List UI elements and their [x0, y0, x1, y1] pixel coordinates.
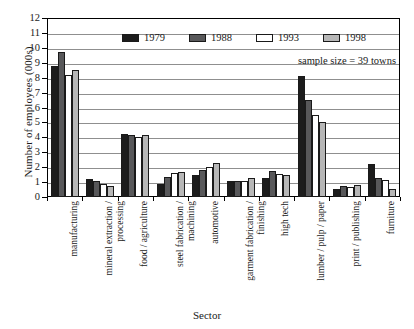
bar [319, 122, 326, 197]
x-axis-label-line: garment fabrication / [245, 201, 255, 281]
y-axis-tick-label: 12 [2, 13, 40, 24]
bar-cluster [259, 18, 294, 197]
bar [283, 175, 290, 197]
bar [312, 115, 319, 197]
x-axis-tick [82, 197, 83, 201]
bars-layer [47, 18, 400, 197]
y-axis-tick [42, 152, 47, 153]
y-axis-tick-label: 5 [2, 117, 40, 128]
y-axis-tick [42, 63, 47, 64]
y-axis-tick-label: 3 [2, 147, 40, 158]
x-axis-category-label: print / publishing [351, 201, 362, 266]
x-axis-category-label: manufacturing [69, 201, 80, 256]
bar [178, 172, 185, 197]
bar [368, 164, 375, 197]
x-axis-label-line: machining [185, 201, 196, 267]
x-axis-tick [400, 197, 401, 201]
legend-label: 1979 [144, 32, 165, 43]
legend-item: 1979 [122, 32, 189, 43]
y-axis-tick-label: 10 [2, 43, 40, 54]
bar-cluster [82, 18, 117, 197]
bar-cluster [188, 18, 223, 197]
x-axis-category-label: furniture [386, 201, 397, 234]
y-axis-tick [42, 122, 47, 123]
legend-swatch [189, 34, 206, 42]
legend-item: 1993 [256, 32, 323, 43]
bar [347, 187, 354, 197]
x-axis-tick [294, 197, 295, 201]
bar-cluster [365, 18, 400, 197]
y-axis-tick [42, 167, 47, 168]
y-axis-tick-label: 9 [2, 58, 40, 69]
x-axis-label-line: finishing [256, 201, 267, 281]
bar [213, 163, 220, 197]
bar-cluster [224, 18, 259, 197]
bar [241, 181, 248, 197]
x-axis-label-line: processing [114, 201, 125, 275]
y-axis-tick [42, 78, 47, 79]
bar [171, 173, 178, 197]
legend-label: 1993 [278, 32, 299, 43]
bar [199, 170, 206, 197]
y-axis-tick [42, 137, 47, 138]
bar [206, 167, 213, 197]
bar [382, 180, 389, 197]
x-axis-category-label: food / agriculture [139, 201, 150, 267]
y-axis-tick [42, 18, 47, 19]
x-axis-category-label: steel fabrication /machining [175, 201, 196, 267]
bar [135, 137, 142, 197]
bar [234, 181, 241, 197]
y-axis-tick [42, 93, 47, 94]
bar-cluster [294, 18, 329, 197]
bar [86, 179, 93, 197]
bar [164, 177, 171, 197]
bar [58, 52, 65, 197]
y-axis-tick-label: 6 [2, 102, 40, 113]
bar [65, 75, 72, 197]
y-axis-tick-label: 7 [2, 87, 40, 98]
x-axis-tick [153, 197, 154, 201]
y-axis-tick [42, 48, 47, 49]
bar [305, 100, 312, 197]
legend-swatch [323, 34, 340, 42]
y-axis-tick-label: 2 [2, 162, 40, 173]
bar [340, 186, 347, 197]
x-axis-label-line: lumber / pulp / paper [316, 201, 326, 281]
bar [192, 175, 199, 197]
legend-label: 1988 [211, 32, 232, 43]
bar [128, 135, 135, 197]
legend-item: 1988 [189, 32, 256, 43]
bar [72, 70, 79, 197]
x-axis-tick [224, 197, 225, 201]
x-axis-label-line: furniture [386, 201, 396, 234]
bar [298, 76, 305, 197]
x-axis-label-line: print / publishing [351, 201, 361, 266]
x-axis-label-line: steel fabrication / [175, 201, 185, 267]
y-axis-tick-label: 8 [2, 72, 40, 83]
bar [248, 178, 255, 197]
x-axis-tick [118, 197, 119, 201]
bar [389, 189, 396, 197]
x-axis-title: Sector [0, 309, 414, 321]
x-axis-label-line: food / agriculture [139, 201, 149, 267]
x-axis-label-line: automotive [210, 201, 220, 244]
y-axis-tick-label: 1 [2, 177, 40, 188]
y-axis-tick [42, 33, 47, 34]
bar [51, 66, 58, 197]
x-axis-category-label: automotive [210, 201, 221, 244]
bar-cluster [47, 18, 82, 197]
x-axis-label-line: mineral extraction / [104, 201, 114, 275]
bar-cluster [118, 18, 153, 197]
bar [375, 178, 382, 197]
x-axis-labels: manufacturingmineral extraction /process… [47, 201, 400, 305]
y-axis-tick [42, 108, 47, 109]
x-axis-label-line: high tech [280, 201, 290, 236]
sample-size-annotation: sample size = 39 towns [298, 55, 396, 66]
x-axis-tick [259, 197, 260, 201]
bar [157, 184, 164, 197]
bar [107, 186, 114, 197]
bar [93, 181, 100, 197]
x-axis-category-label: mineral extraction /processing [104, 201, 125, 275]
bar-chart: Number of employees (000s) 0123456789101… [0, 0, 414, 329]
legend: 1979198819931998 [122, 32, 390, 43]
